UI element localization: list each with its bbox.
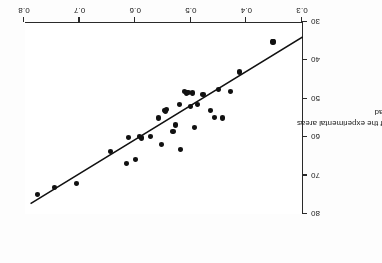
data-point (52, 185, 57, 190)
y-tick-mark (302, 136, 307, 137)
y-axis-label-line-1: Mean ultimate values of "skid-resistance… (297, 118, 382, 129)
x-tick-label: 0.6 (129, 6, 140, 15)
rotated-figure-content: 0.30.40.50.60.70.8 304050607080 Polished… (0, 0, 382, 263)
x-tick-label: 0.7 (74, 6, 85, 15)
data-point (170, 129, 175, 134)
data-point (212, 115, 217, 120)
y-axis-label-line-2: of chippings in the road (297, 108, 382, 119)
data-point (190, 90, 195, 95)
data-point (271, 39, 276, 44)
x-tick-mark (78, 17, 79, 22)
plot-area: 0.30.40.50.60.70.8 304050607080 (25, 22, 303, 214)
y-axis-label: Mean ultimate values of "skid-resistance… (297, 108, 382, 129)
y-tick-mark (302, 59, 307, 60)
data-point (126, 135, 131, 140)
x-tick-mark (245, 17, 246, 22)
x-tick-mark (134, 17, 135, 22)
data-point (216, 87, 221, 92)
x-tick-label: 0.4 (241, 6, 252, 15)
y-tick-mark (302, 21, 307, 22)
y-tick-label: 50 (311, 94, 320, 103)
y-tick-label: 30 (311, 18, 320, 27)
data-point (133, 157, 138, 162)
x-tick-label: 0.3 (296, 6, 307, 15)
y-tick-mark (302, 98, 307, 99)
y-tick-label: 80 (311, 210, 320, 219)
data-point (173, 122, 178, 127)
x-tick-mark (23, 17, 24, 22)
y-tick-label: 40 (311, 56, 320, 65)
data-point (156, 115, 161, 120)
y-tick-label: 70 (311, 171, 320, 180)
y-tick-label: 60 (311, 133, 320, 142)
data-point (208, 108, 213, 113)
x-tick-label: 0.5 (185, 6, 196, 15)
data-point (220, 115, 225, 120)
figure-container: 0.30.40.50.60.70.8 304050607080 Polished… (0, 0, 382, 263)
data-point (200, 92, 205, 97)
y-tick-mark (302, 174, 307, 175)
data-point (237, 69, 242, 74)
x-tick-label: 0.8 (18, 6, 29, 15)
y-tick-mark (302, 213, 307, 214)
x-tick-mark (190, 17, 191, 22)
trendline (24, 22, 302, 214)
